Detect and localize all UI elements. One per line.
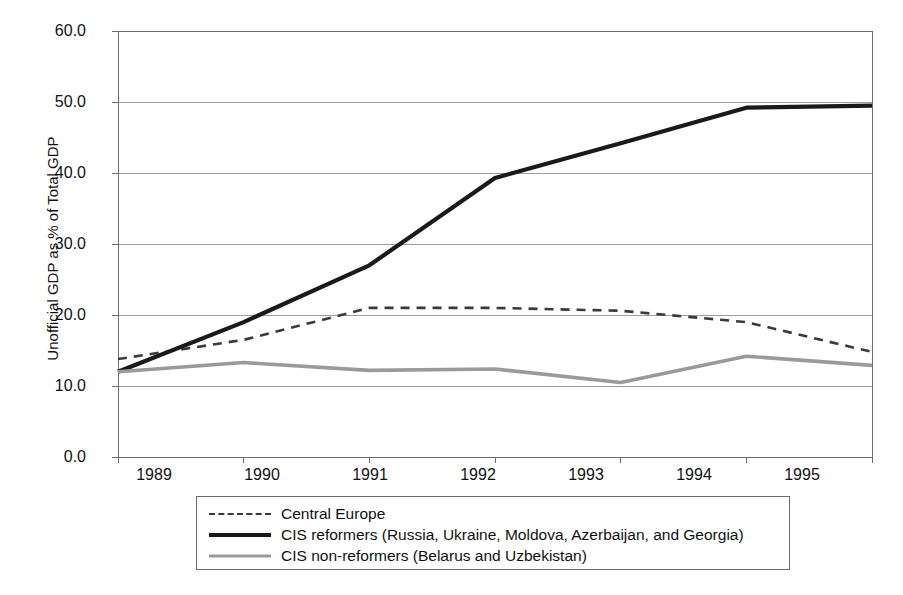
legend-swatch-solid-gray-line-icon: [209, 550, 271, 562]
legend-item-label: CIS non-reformers (Belarus and Uzbekista…: [281, 547, 587, 565]
legend-item: CIS non-reformers (Belarus and Uzbekista…: [197, 545, 789, 566]
legend-item: CIS reformers (Russia, Ukraine, Moldova,…: [197, 524, 789, 545]
legend-swatch-dashed-line-icon: [209, 508, 271, 520]
chart-figure: Unofficial GDP as % of Total GDP 60.0 50…: [0, 0, 903, 595]
gridlines: [118, 31, 872, 457]
chart-legend: Central Europe CIS reformers (Russia, Uk…: [196, 496, 790, 570]
legend-swatch-solid-black-line-icon: [209, 529, 271, 541]
axis-tick-marks: [112, 31, 872, 463]
legend-item-label: CIS reformers (Russia, Ukraine, Moldova,…: [281, 526, 744, 544]
legend-item-label: Central Europe: [281, 505, 385, 523]
legend-item: Central Europe: [197, 503, 789, 524]
